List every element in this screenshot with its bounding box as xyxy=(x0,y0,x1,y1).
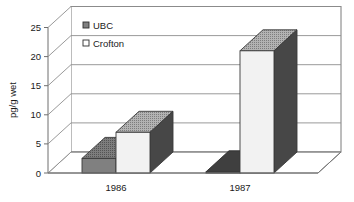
y-tick-label-10: 10 xyxy=(30,109,41,120)
y-axis-ticks xyxy=(44,28,48,174)
bar-crofton-1986-front xyxy=(116,132,150,173)
x-axis-category-labels: 1986 1987 xyxy=(105,182,250,193)
legend-label-ubc: UBC xyxy=(93,20,113,31)
left-wall-panel xyxy=(48,7,71,174)
bar-crofton-1987-front xyxy=(240,51,274,173)
y-tick-label-0: 0 xyxy=(36,168,41,179)
bar-chart-3d: 25 20 15 10 5 0 pg/g wet xyxy=(0,0,354,202)
y-axis-wall-left xyxy=(48,7,71,174)
y-axis-title: pg/g wet xyxy=(7,82,18,118)
bar-crofton-1987[interactable] xyxy=(240,30,297,173)
y-tick-label-25: 25 xyxy=(30,22,41,33)
y-tick-label-15: 15 xyxy=(30,80,41,91)
y-tick-label-5: 5 xyxy=(36,138,41,149)
category-label-1987: 1987 xyxy=(229,182,250,193)
y-tick-label-20: 20 xyxy=(30,51,41,62)
y-axis-tick-labels: 25 20 15 10 5 0 xyxy=(30,22,41,179)
legend-label-crofton: Crofton xyxy=(93,38,124,49)
category-label-1986: 1986 xyxy=(105,182,126,193)
legend-swatch-crofton-icon xyxy=(83,40,89,46)
bar-ubc-1986-front xyxy=(82,158,116,173)
chart-container: 25 20 15 10 5 0 pg/g wet xyxy=(0,0,354,202)
bar-crofton-1987-side xyxy=(274,30,297,173)
legend-swatch-ubc-icon xyxy=(83,22,89,28)
